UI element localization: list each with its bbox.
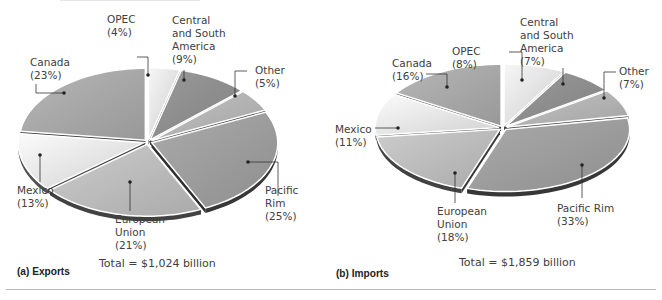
label-pacific-rim: Pacific Rim (25%) xyxy=(265,184,298,223)
exports-pie-panel: OPEC (4%) Central and South America (9%)… xyxy=(0,0,331,290)
label-central-south-america: Central and South America (7%) xyxy=(520,16,574,68)
label-mexico: Mexico (13%) xyxy=(17,184,54,210)
caption-imports: (b) Imports xyxy=(336,267,389,279)
total-imports: Total = $1,859 billion xyxy=(459,256,576,269)
label-other: Other (5%) xyxy=(255,64,285,90)
label-opec: OPEC (8%) xyxy=(452,45,481,71)
label-european-union: European Union (21%) xyxy=(115,213,165,252)
label-other: Other (7%) xyxy=(619,65,649,91)
label-mexico: Mexico (11%) xyxy=(335,123,372,149)
label-european-union: European Union (18%) xyxy=(437,205,487,244)
imports-pie-chart xyxy=(331,0,662,290)
total-exports: Total = $1,024 billion xyxy=(99,257,216,270)
imports-pie-panel: OPEC (8%) Central and South America (7%)… xyxy=(331,0,662,290)
label-canada: Canada (23%) xyxy=(30,56,70,82)
label-opec: OPEC (4%) xyxy=(107,13,136,39)
bottom-rule xyxy=(6,289,656,290)
label-canada: Canada (16%) xyxy=(392,57,432,83)
label-pacific-rim: Pacific Rim (33%) xyxy=(557,202,614,228)
label-central-south-america: Central and South America (9%) xyxy=(172,14,226,66)
caption-exports: (a) Exports xyxy=(17,265,70,277)
exports-pie-chart xyxy=(0,0,331,290)
